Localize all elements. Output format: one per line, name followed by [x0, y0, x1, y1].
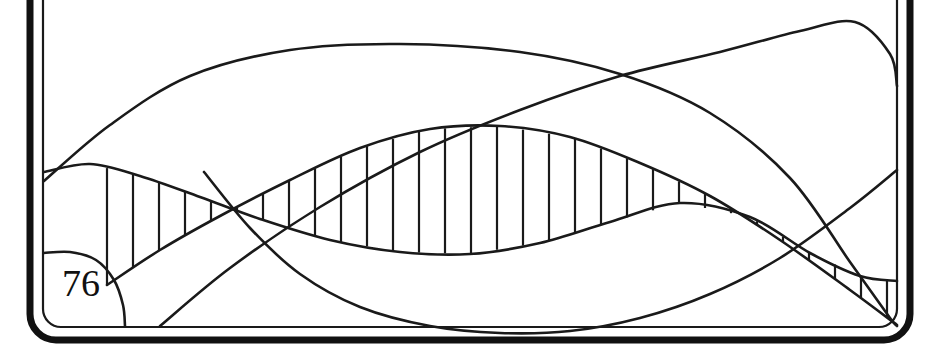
figure-plot: 76 [0, 0, 939, 357]
curve-basin-curve [204, 170, 897, 333]
plot-area [44, 21, 897, 333]
figure-container: 76 [0, 0, 939, 357]
figure-number-label: 76 [62, 262, 100, 304]
hatched-region [107, 126, 887, 317]
curve-lower-envelope [107, 125, 897, 325]
